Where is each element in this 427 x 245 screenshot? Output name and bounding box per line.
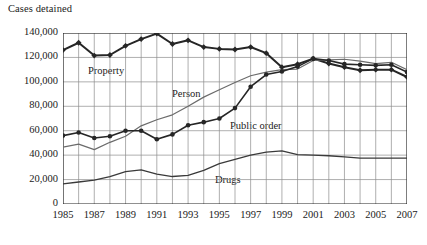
data-point-public-order (342, 62, 347, 67)
data-point-public-order (217, 116, 222, 121)
data-point-public-order (248, 84, 253, 89)
y-tick-label: 0 (3, 197, 58, 208)
data-point-property (248, 44, 254, 50)
y-tick-label: 20,000 (3, 173, 58, 184)
data-point-public-order (264, 72, 269, 77)
y-tick-label: 80,000 (3, 99, 58, 110)
y-tick-label: 120,000 (3, 50, 58, 61)
data-point-public-order (63, 133, 65, 138)
data-point-property (138, 36, 144, 42)
data-point-public-order (311, 56, 316, 61)
data-point-public-order (201, 120, 206, 125)
y-axis-title: Cases detained (8, 3, 72, 14)
chart-figure: Cases detained 020,00040,00060,00080,000… (0, 0, 427, 245)
data-point-public-order (92, 136, 97, 141)
data-point-public-order (233, 106, 238, 111)
data-point-property (216, 46, 222, 52)
data-point-property (357, 67, 363, 73)
data-point-public-order (186, 123, 191, 128)
data-point-public-order (139, 128, 144, 133)
data-point-public-order (358, 62, 363, 67)
y-tick-label: 100,000 (3, 75, 58, 86)
data-point-property (201, 44, 207, 50)
data-point-public-order (295, 64, 300, 69)
data-point-public-order (389, 62, 394, 67)
data-point-public-order (373, 63, 378, 68)
plot-area (63, 33, 407, 204)
y-tick-label: 40,000 (3, 148, 58, 159)
data-point-property (185, 37, 191, 43)
data-point-property (232, 47, 238, 53)
x-tick-label: 2007 (387, 209, 427, 220)
data-point-public-order (76, 130, 81, 135)
data-point-public-order (170, 132, 175, 137)
chart-canvas (63, 33, 407, 204)
y-tick-label: 60,000 (3, 124, 58, 135)
data-point-public-order (280, 69, 285, 74)
data-point-public-order (155, 137, 160, 142)
data-point-public-order (123, 128, 128, 133)
data-point-public-order (108, 134, 113, 139)
data-point-public-order (327, 58, 332, 63)
y-tick-label: 140,000 (3, 26, 58, 37)
